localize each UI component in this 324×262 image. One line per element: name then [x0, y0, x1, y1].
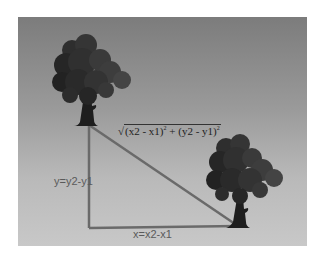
- tree-icon: [52, 34, 131, 126]
- horizontal-leg-label: x=x2-x1: [133, 228, 172, 240]
- tree-icon: [206, 134, 283, 228]
- vertical-leg-label: y=y2-y1: [54, 175, 93, 187]
- hypotenuse-formula: √(x2 - x1)2 + (y2 - y1)2: [118, 124, 221, 137]
- radicand: (x2 - x1)2 + (y2 - y1)2: [124, 124, 221, 137]
